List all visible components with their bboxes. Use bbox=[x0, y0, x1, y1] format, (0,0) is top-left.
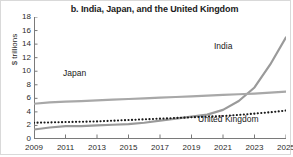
x-tick-label: 2013 bbox=[82, 143, 112, 152]
y-tick-label: 6 bbox=[17, 94, 31, 102]
y-tick-label: 0 bbox=[17, 135, 31, 143]
series-label-japan: Japan bbox=[63, 68, 86, 78]
series-label-india: India bbox=[214, 41, 232, 51]
y-tick-label: 18 bbox=[17, 13, 31, 21]
y-tick-label: 14 bbox=[17, 40, 31, 48]
y-tick-label: 2 bbox=[17, 121, 31, 129]
x-tick-label: 2021 bbox=[208, 143, 238, 152]
x-tick-label: 2019 bbox=[177, 143, 207, 152]
x-tick-label: 2009 bbox=[19, 143, 49, 152]
y-tick-label: 8 bbox=[17, 81, 31, 89]
series-line-japan bbox=[34, 92, 286, 104]
x-tick-label: 2011 bbox=[51, 143, 81, 152]
x-axis-tick-labels: 200920112013201520172019202120232025 bbox=[1, 143, 292, 155]
y-tick-label: 12 bbox=[17, 54, 31, 62]
x-tick-label: 2025 bbox=[271, 143, 293, 152]
x-tick-marks bbox=[34, 135, 286, 139]
y-tick-label: 4 bbox=[17, 108, 31, 116]
x-tick-label: 2015 bbox=[114, 143, 144, 152]
series-label-united-kingdom: United Kingdom bbox=[198, 114, 258, 124]
y-tick-label: 10 bbox=[17, 67, 31, 75]
y-tick-label: 16 bbox=[17, 27, 31, 35]
chart-figure: b. India, Japan, and the United Kingdom … bbox=[0, 0, 291, 155]
chart-title: b. India, Japan, and the United Kingdom bbox=[1, 4, 290, 14]
y-axis-tick-labels: 024681012141618 bbox=[15, 1, 31, 156]
x-tick-label: 2023 bbox=[240, 143, 270, 152]
x-tick-label: 2017 bbox=[145, 143, 175, 152]
